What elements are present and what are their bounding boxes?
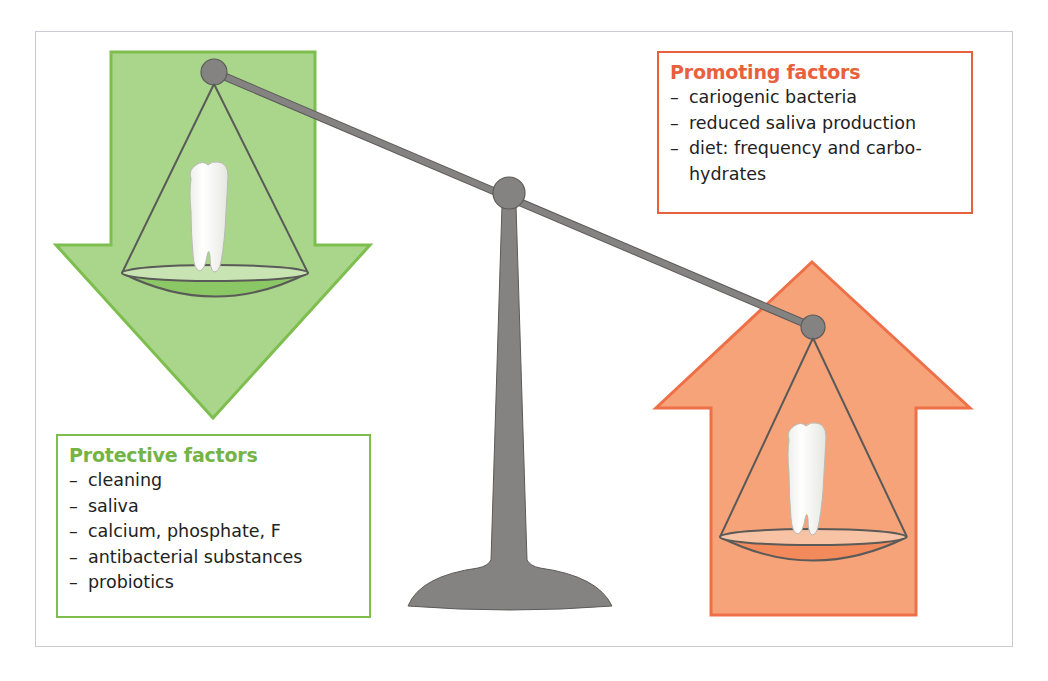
protective-factors-title: Protective factors bbox=[69, 442, 369, 468]
promoting-factors-title: Promoting factors bbox=[670, 59, 971, 85]
list-item-text: calcium, phosphate, F bbox=[88, 521, 281, 541]
dash-bullet: – bbox=[69, 519, 78, 545]
list-item: –reduced saliva production bbox=[670, 111, 971, 137]
dash-bullet: – bbox=[69, 545, 78, 571]
dash-bullet: – bbox=[69, 570, 78, 596]
list-item: –probiotics bbox=[69, 570, 369, 596]
right-pivot-icon bbox=[801, 315, 825, 339]
dash-bullet: – bbox=[69, 494, 78, 520]
list-item-text: antibacterial substances bbox=[88, 547, 302, 567]
list-item-text: reduced saliva production bbox=[689, 113, 916, 133]
list-item: –cariogenic bacteria bbox=[670, 85, 971, 111]
list-item-text: saliva bbox=[88, 496, 139, 516]
promoting-factors-box: Promoting factors –cariogenic bacteria –… bbox=[657, 51, 973, 214]
left-pivot-icon bbox=[201, 59, 227, 85]
list-item: –antibacterial substances bbox=[69, 545, 369, 571]
dash-bullet: – bbox=[670, 85, 679, 111]
list-item: –saliva bbox=[69, 494, 369, 520]
scale-stand-icon bbox=[408, 205, 612, 610]
list-item: –cleaning bbox=[69, 468, 369, 494]
dash-bullet: – bbox=[670, 111, 679, 137]
list-item: –calcium, phosphate, F bbox=[69, 519, 369, 545]
list-item-continuation: hydrates bbox=[670, 162, 971, 188]
list-item-text: cleaning bbox=[88, 470, 162, 490]
center-pivot-icon bbox=[493, 177, 525, 209]
list-item-text: hydrates bbox=[689, 164, 766, 184]
list-item: –diet: frequency and carbo- bbox=[670, 136, 971, 162]
protective-factors-list: –cleaning –saliva –calcium, phosphate, F… bbox=[69, 468, 369, 596]
dash-bullet: – bbox=[670, 136, 679, 162]
protective-factors-box: Protective factors –cleaning –saliva –ca… bbox=[56, 434, 371, 618]
list-item-text: diet: frequency and carbo- bbox=[689, 138, 922, 158]
list-item-text: cariogenic bacteria bbox=[689, 87, 857, 107]
promoting-factors-list: –cariogenic bacteria –reduced saliva pro… bbox=[670, 85, 971, 187]
dash-bullet: – bbox=[69, 468, 78, 494]
list-item-text: probiotics bbox=[88, 572, 174, 592]
